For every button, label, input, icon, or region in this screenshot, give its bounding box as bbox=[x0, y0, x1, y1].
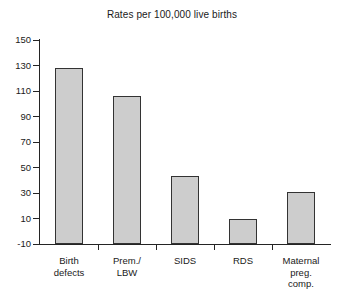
x-axis-tick bbox=[156, 244, 157, 250]
y-axis-tick-label: 90 bbox=[1, 112, 31, 122]
plot-area bbox=[40, 40, 330, 244]
y-axis-tick bbox=[33, 65, 39, 66]
x-axis-tick bbox=[98, 244, 99, 250]
y-axis-tick-label: 110 bbox=[1, 86, 31, 96]
y-axis-tick bbox=[33, 218, 39, 219]
bar bbox=[171, 176, 199, 244]
chart-title: Rates per 100,000 live births bbox=[0, 9, 344, 20]
x-axis-category-label: Prem./LBW bbox=[98, 255, 156, 278]
y-axis-tick-label: 30 bbox=[1, 188, 31, 198]
y-axis-tick-label: 50 bbox=[1, 163, 31, 173]
y-axis-tick bbox=[33, 116, 39, 117]
y-axis-tick bbox=[33, 167, 39, 168]
bar bbox=[287, 192, 315, 244]
bar bbox=[229, 219, 257, 245]
x-axis-tick bbox=[214, 244, 215, 250]
bar bbox=[55, 68, 83, 244]
y-axis-tick-label: -10 bbox=[1, 239, 31, 249]
x-axis-category-label: RDS bbox=[214, 255, 272, 267]
y-axis-tick bbox=[33, 91, 39, 92]
x-axis-category-label: Birthdefects bbox=[40, 255, 98, 278]
y-axis-tick bbox=[33, 40, 39, 41]
y-axis-tick-label: 130 bbox=[1, 61, 31, 71]
y-axis-tick-label: 10 bbox=[1, 214, 31, 224]
y-axis-tick-label: 150 bbox=[1, 35, 31, 45]
x-axis-category-label: SIDS bbox=[156, 255, 214, 267]
bar-chart: Rates per 100,000 live births -101030507… bbox=[0, 0, 344, 296]
bar bbox=[113, 96, 141, 244]
y-axis-tick bbox=[33, 142, 39, 143]
x-axis-tick bbox=[272, 244, 273, 250]
x-axis-category-label: Maternalpreg.comp. bbox=[272, 255, 330, 290]
y-axis-tick bbox=[33, 193, 39, 194]
y-axis-tick-label: 70 bbox=[1, 137, 31, 147]
y-axis-tick bbox=[33, 244, 39, 245]
